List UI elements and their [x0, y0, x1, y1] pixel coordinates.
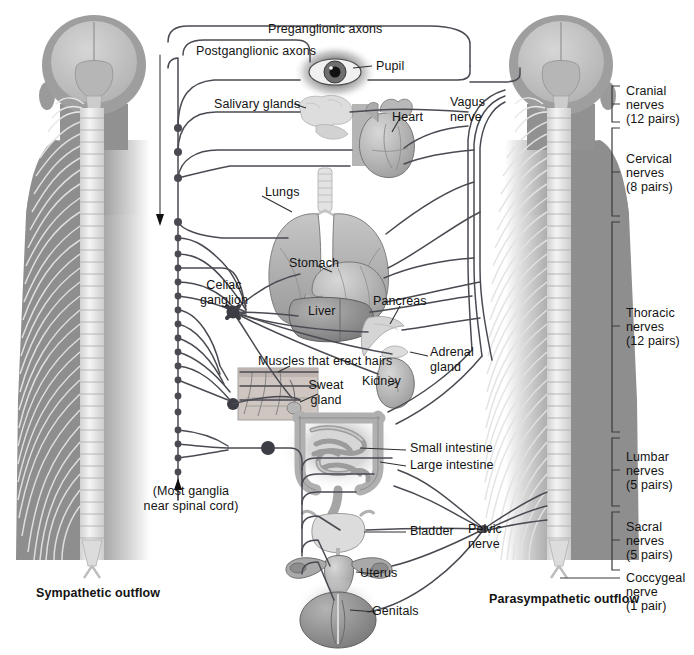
region-thoracic-line1: Thoracic	[626, 306, 675, 321]
preganglionic-axons-label: Preganglionic axons	[268, 22, 382, 37]
adrenal-gland-label: Adrenal gland	[430, 345, 474, 374]
pelvic-nerve-label: Pelvic nerve	[468, 522, 502, 551]
region-cranial-line2: nerves	[626, 98, 664, 113]
region-sacral-line3: (5 pairs)	[626, 548, 673, 563]
pancreas-label: Pancreas	[373, 294, 427, 309]
region-thoracic-line2: nerves	[626, 320, 664, 335]
heart-label: Heart	[392, 110, 423, 125]
region-sacral-line2: nerves	[626, 534, 664, 549]
hypogastric-ganglion-node	[261, 441, 275, 455]
right-coccyx	[551, 566, 567, 578]
small-intestine-label: Small intestine	[410, 441, 493, 456]
most-ganglia-note: (Most ganglia near spinal cord)	[126, 484, 256, 513]
organ-salivary-glands	[299, 95, 353, 139]
vagus-nerve-label: Vagus nerve	[450, 95, 485, 124]
region-lumbar-line2: nerves	[626, 464, 664, 479]
lungs-label: Lungs	[265, 185, 300, 200]
region-cranial-line1: Cranial	[626, 84, 666, 99]
sweat-gland-label-line1: Sweat gland	[308, 378, 343, 407]
left-sacrum	[82, 540, 102, 566]
stomach-label: Stomach	[289, 256, 339, 271]
sweat-gland-label: Sweat gland	[298, 378, 354, 407]
vagus-to-pancreas	[402, 318, 480, 330]
celiac-ganglion-label: Celiac ganglion	[186, 278, 262, 307]
uterus-label: Uterus	[360, 566, 397, 581]
region-cervical-line1: Cervical	[626, 152, 672, 167]
region-thoracic-line3: (12 pairs)	[626, 334, 680, 349]
region-cranial-line3: (12 pairs)	[626, 112, 680, 127]
organ-bladder	[302, 511, 374, 562]
parasympathetic-outflow-label: Parasympathetic outflow	[489, 592, 639, 607]
region-cervical-line2: nerves	[626, 166, 664, 181]
pupil-label: Pupil	[376, 59, 404, 74]
region-coccygeal-line1: Coccygeal	[626, 571, 685, 586]
kidney-label: Kidney	[362, 374, 401, 389]
right-sacrum	[549, 540, 569, 566]
organ-genitals	[294, 578, 382, 648]
postganglionic-axons-label: Postganglionic axons	[196, 44, 316, 59]
bladder-label: Bladder	[410, 524, 454, 539]
region-lumbar-line3: (5 pairs)	[626, 478, 673, 493]
vagus-to-lungs-2	[388, 212, 480, 268]
salivary-glands-label: Salivary glands	[214, 97, 300, 112]
genitals-label: Genitals	[372, 604, 419, 619]
erector-muscles-label: Muscles that erect hairs	[258, 354, 392, 369]
region-lumbar-line1: Lumbar	[626, 450, 669, 465]
liver-label: Liver	[308, 304, 336, 319]
leader-adrenal	[410, 352, 428, 356]
vagus-to-stomach	[384, 258, 474, 278]
autonomic-nervous-system-figure	[0, 0, 694, 655]
sympathetic-outflow-label: Sympathetic outflow	[36, 586, 160, 601]
region-sacral-line1: Sacral	[626, 520, 662, 535]
large-intestine-label: Large intestine	[410, 458, 494, 473]
left-coccyx	[84, 566, 100, 578]
preganglionic-arrowhead	[156, 214, 164, 226]
region-cervical-line3: (8 pairs)	[626, 180, 673, 195]
right-body-figure	[485, 15, 639, 578]
figure-canvas	[0, 0, 694, 655]
vagus-to-lungs	[386, 182, 474, 234]
organ-intestines	[280, 404, 396, 514]
pelvic-to-large-intestine	[398, 470, 484, 529]
